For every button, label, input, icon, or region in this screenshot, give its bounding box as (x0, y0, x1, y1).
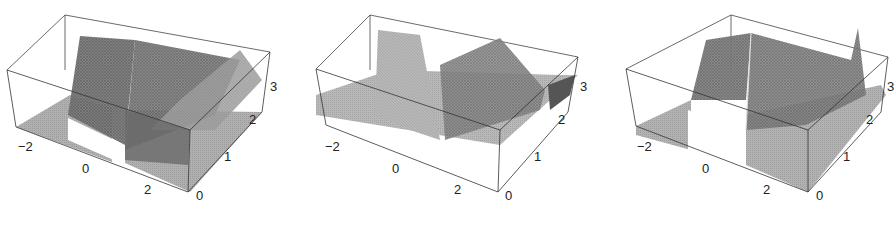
y-tick-label: 3 (270, 80, 277, 93)
x-tick-label: 2 (763, 183, 770, 196)
x-tick-label: 2 (454, 183, 461, 196)
y-tick-label: 1 (224, 150, 231, 163)
y-tick-label: 2 (558, 113, 565, 126)
surface-plot-2: −2 0 2 0 1 2 3 (300, 0, 600, 233)
surface-plot-3: −2 0 2 0 1 2 3 (596, 0, 896, 233)
y-tick-label: 3 (580, 80, 587, 93)
y-tick-label: 0 (196, 189, 203, 202)
y-tick-label: 3 (887, 80, 894, 93)
y-tick-label: 0 (505, 189, 512, 202)
box-frame-back (316, 15, 578, 70)
y-tick-label: 1 (843, 150, 850, 163)
x-tick-label: −2 (637, 140, 652, 153)
surface-sheet-left (691, 33, 751, 100)
plot-canvas (596, 0, 896, 233)
x-tick-label: −2 (18, 140, 33, 153)
x-tick-label: 0 (702, 162, 709, 175)
y-tick-label: 1 (534, 150, 541, 163)
surface-plot-1: −2 0 2 0 1 2 3 (0, 0, 300, 233)
x-tick-label: −2 (325, 140, 340, 153)
x-tick-label: 0 (392, 162, 399, 175)
y-tick-label: 2 (866, 113, 873, 126)
y-tick-label: 2 (249, 113, 256, 126)
x-tick-label: 2 (144, 183, 151, 196)
x-tick-label: 0 (82, 162, 89, 175)
floor-gap (688, 110, 744, 168)
surface-sheet-right (440, 38, 545, 140)
y-tick-label: 0 (816, 189, 823, 202)
plot-canvas (300, 0, 600, 233)
